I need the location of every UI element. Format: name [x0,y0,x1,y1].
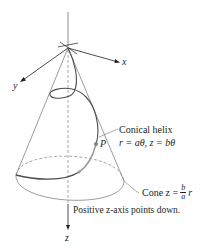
conical-helix-diagram: x y z P Conical helix r = aθ, z = bθ Con… [0,0,212,248]
x-axis [68,48,118,62]
y-axis-label: y [13,81,17,91]
cone-equation: Cone z = b a r [142,184,192,201]
helix-label-leader [99,129,118,137]
y-axis-arrowhead [20,77,26,82]
helix-lower-front [16,172,79,179]
cone-base-back [16,156,124,181]
z-axis-arrowhead [66,225,70,230]
x-axis-label: x [122,57,126,67]
cone-fraction-denominator: a [180,193,186,201]
helix-lower [79,144,96,172]
cone-suffix: r [188,188,192,198]
point-p-label: P [100,139,106,149]
z-axis-label: z [65,233,69,243]
cone-fraction: b a [180,184,186,201]
helix-marker [77,170,80,173]
point-p-marker [94,142,98,146]
cone-prefix: Cone z = [142,188,178,198]
helix-title: Conical helix [119,125,173,135]
cone-label-leader [124,181,139,193]
x-axis-arrowhead [115,59,121,63]
helix-equation: r = aθ, z = bθ [119,138,175,148]
helix-top-loop [50,48,98,144]
z-axis-note: Positive z-axis points down. [73,206,180,216]
